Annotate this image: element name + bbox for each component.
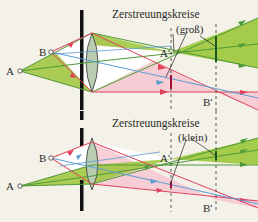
label-b: B [39, 46, 46, 58]
label-b-prime: B' [203, 202, 212, 214]
pointer-line [173, 34, 174, 52]
label-b: B [39, 152, 46, 164]
label-a: A [6, 65, 14, 77]
object-point-a [18, 184, 22, 188]
object-point-b [49, 156, 53, 160]
optics-svg: A B A' B' Zerstreuungskreise (groß) [0, 0, 258, 222]
object-point-b [49, 50, 53, 54]
aperture-stop-upper-2 [80, 128, 84, 146]
panel-bottom: A B A' B' Zerstreuungskreise (klein) [6, 111, 258, 214]
aperture-stop-top [80, 10, 84, 110]
panel-top: A B A' B' Zerstreuungskreise (groß) [6, 8, 258, 111]
object-point-a [18, 69, 22, 73]
blur-circles-title: Zerstreuungskreise [112, 117, 200, 130]
label-a-prime: A' [160, 47, 170, 59]
depth-of-field-diagram: A B A' B' Zerstreuungskreise (groß) [0, 0, 258, 222]
blur-circles-size: (groß) [176, 23, 204, 36]
blur-circles-title: Zerstreuungskreise [112, 8, 200, 21]
label-a-prime: A' [160, 152, 170, 164]
label-b-prime: B' [203, 96, 212, 108]
aperture-stop-upper [80, 111, 84, 120]
blur-circles-size: (klein) [178, 131, 208, 144]
label-a: A [6, 180, 14, 192]
